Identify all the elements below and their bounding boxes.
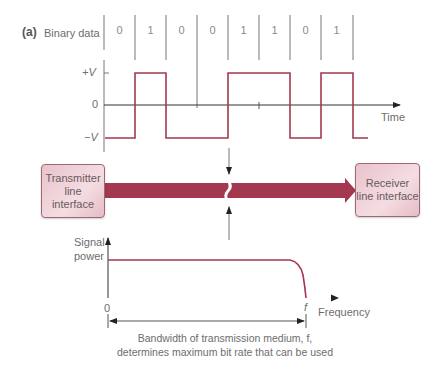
receiver-label-line1: Receiver [356,177,418,190]
channel-break [226,179,231,203]
spectrum-curve [108,260,306,298]
bit-value: 1 [135,25,166,36]
minus-v-label: −V [84,132,98,143]
bit-value: 0 [290,25,321,36]
bandwidth-arrowhead-right [297,318,305,324]
transmitter-line-interface-box: Transmitter line interface [41,164,105,218]
time-axis-label: Time [381,112,405,123]
frequency-axis-label: Frequency [318,307,370,318]
signal-power-label-line2: power [74,251,104,262]
spectrum-x-arrowhead [331,295,339,302]
transmitter-label-line1: Transmitter [42,172,104,185]
transmitter-label-line2: line interface [42,185,104,211]
bit-value: 0 [197,25,228,36]
cutoff-frequency-label: f [304,302,307,313]
bit-value: 1 [228,25,259,36]
plus-v-label: +V [82,67,96,78]
bit-value: 1 [259,25,290,36]
zero-level-label: 0 [92,99,98,110]
signal-power-label-line1: Signal [74,237,105,248]
bit-value: 0 [166,25,197,36]
bandwidth-caption-line2: determines maximum bit rate that can be … [60,347,390,358]
receiver-line-interface-box: Receiver line interface [355,163,420,217]
bit-value: 0 [104,25,135,36]
part-label: (a) [22,26,37,38]
bit-value: 1 [321,25,352,36]
bandwidth-caption-line1: Bandwidth of transmission medium, f, [60,333,390,344]
bandwidth-arrowhead-left [109,318,117,324]
receiver-label-line2: line interface [356,190,418,203]
frequency-origin-label: 0 [104,303,110,314]
binary-data-label: Binary data [44,28,100,39]
